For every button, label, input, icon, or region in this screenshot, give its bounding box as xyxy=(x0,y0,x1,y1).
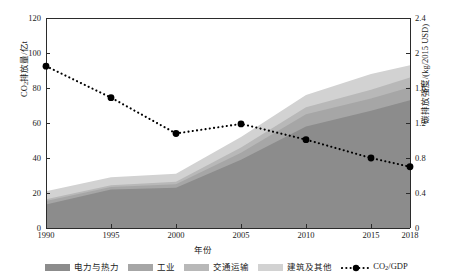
co2-gdp-marker xyxy=(43,63,50,70)
x-tick-label: 2000 xyxy=(156,230,196,240)
y-axis-right-title: 碳排放强度/(kg/2015 USD) xyxy=(418,0,430,154)
x-axis-title-text: 年份 xyxy=(194,245,212,255)
chart-legend: 电力与热力工业交通运输建筑及其他CO2/GDP xyxy=(0,258,453,276)
y-axis-left-title-main: CO xyxy=(19,85,29,97)
legend-label-co2-main: CO xyxy=(373,261,385,271)
legend-swatch-transport xyxy=(184,264,209,271)
x-tick-label: 2010 xyxy=(286,230,326,240)
y-right-tick-label: 0.4 xyxy=(415,188,445,198)
co2-gdp-marker xyxy=(407,163,414,170)
legend-swatch-industry xyxy=(128,264,153,271)
y-right-tick-label: 0.8 xyxy=(415,153,445,163)
legend-item-industry[interactable]: 工业 xyxy=(128,263,175,272)
legend-swatch-electricity-heat xyxy=(45,264,70,271)
y-axis-left-title-rest: 排放量/亿t xyxy=(19,41,29,82)
x-tick-label: 1995 xyxy=(91,230,131,240)
x-tick-label: 1990 xyxy=(26,230,66,240)
legend-label-electricity-heat: 电力与热力 xyxy=(74,263,119,272)
legend-item-buildings-other[interactable]: 建筑及其他 xyxy=(258,263,332,272)
legend-item-electricity-heat[interactable]: 电力与热力 xyxy=(45,263,119,272)
legend-label-co2-rest: /GDP xyxy=(388,261,407,271)
co2-gdp-marker xyxy=(108,94,115,101)
legend-swatch-buildings-other xyxy=(258,264,283,271)
co2-gdp-marker xyxy=(173,130,180,137)
legend-label-co2-gdp: CO2/GDP xyxy=(373,262,407,272)
co2-gdp-marker xyxy=(368,155,375,162)
co2-gdp-marker xyxy=(303,136,310,143)
x-tick-label: 2005 xyxy=(221,230,261,240)
legend-dotted-line-marker-icon xyxy=(341,263,369,271)
co2-gdp-marker xyxy=(238,120,245,127)
legend-item-co2-gdp[interactable]: CO2/GDP xyxy=(341,262,407,272)
y-left-tick-label: 20 xyxy=(13,188,41,198)
legend-label-transport: 交通运输 xyxy=(213,263,249,272)
y-left-tick-label: 40 xyxy=(13,153,41,163)
x-axis-title: 年份 xyxy=(0,243,453,255)
legend-label-industry: 工业 xyxy=(157,263,175,272)
x-tick-label: 2018 xyxy=(390,230,430,240)
legend-item-transport[interactable]: 交通运输 xyxy=(184,263,249,272)
x-tick-label: 2015 xyxy=(351,230,391,240)
y-axis-left-title: CO2排放量/亿t xyxy=(17,0,29,144)
co2-emissions-chart: 020406080100120 00.40.81.21.622.4 199019… xyxy=(0,0,453,280)
legend-label-buildings-other: 建筑及其他 xyxy=(287,263,332,272)
y-axis-left-title-sub: 2 xyxy=(22,82,29,85)
